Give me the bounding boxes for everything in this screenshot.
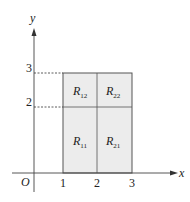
rectangle-partition-diagram: y x O 1 2 3 3 2 R12 R22 R11 R21 (0, 0, 190, 202)
x-axis-label: x (178, 166, 185, 180)
x-tick-1: 1 (60, 176, 66, 190)
x-axis-arrow-icon (170, 171, 178, 176)
x-tick-2: 2 (94, 176, 100, 190)
x-tick-3: 3 (129, 176, 135, 190)
y-axis-label: y (29, 11, 36, 25)
y-tick-3: 3 (26, 61, 32, 75)
origin-label: O (21, 175, 30, 189)
y-axis-arrow-icon (32, 28, 37, 36)
y-tick-2: 2 (26, 95, 32, 109)
